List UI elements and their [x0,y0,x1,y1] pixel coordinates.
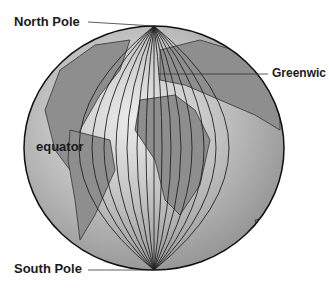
equator-label: equator [36,139,84,154]
north-pole-leader [88,22,154,26]
greenwich-label: Greenwic [272,66,326,80]
north-pole-label: North Pole [14,14,80,29]
south-pole-label: South Pole [14,261,82,276]
